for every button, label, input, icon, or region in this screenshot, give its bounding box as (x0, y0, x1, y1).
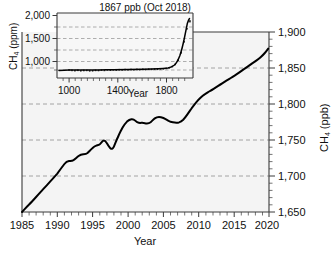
inset-annotation-label: 1867 ppb (Oct 2018) (99, 2, 191, 13)
x-tick-label: 2000 (116, 219, 140, 231)
x-tick-label: 1985 (10, 219, 34, 231)
y-tick-label: 1,850 (278, 62, 306, 74)
x-tick-label: 1990 (45, 219, 69, 231)
inset-y-tick-labels: 1,000 1,500 2,000 (25, 10, 50, 67)
y-tick-label: 1,750 (278, 134, 306, 146)
y-tick-label: 1,800 (278, 98, 306, 110)
inset-y-tick-label: 1,500 (25, 33, 50, 44)
main-y-major-ticks (269, 32, 275, 212)
svg-text:CH4 (ppb): CH4 (ppb) (318, 103, 331, 152)
inset-y-axis-title: CH4 (ppm) (8, 23, 20, 70)
inset-x-tick-label: 1800 (155, 85, 178, 96)
inset-y-tick-label: 1,000 (25, 56, 50, 67)
main-y-tick-labels: 1,650 1,700 1,750 1,800 1,850 1,900 (278, 26, 306, 218)
inset-x-tick-label: 1000 (58, 85, 81, 96)
inset-x-tick-labels: 1000 1400 1800 (58, 85, 178, 96)
x-tick-label: 2010 (186, 219, 210, 231)
x-tick-label: 2005 (151, 219, 175, 231)
main-x-tick-labels: 1985 1990 1995 2000 2005 2010 2015 2020 (10, 219, 279, 231)
inset-x-tick-label: 1400 (107, 85, 130, 96)
y-tick-label: 1,650 (278, 206, 306, 218)
main-y-axis-title: CH4 (ppb) (318, 103, 331, 152)
main-x-axis-title: Year (134, 235, 157, 247)
inset-x-axis-title: Year (128, 88, 149, 99)
chart-canvas: 1985 1990 1995 2000 2005 2010 2015 2020 … (0, 0, 336, 253)
inset-y-tick-label: 2,000 (25, 10, 50, 21)
x-tick-label: 2015 (222, 219, 246, 231)
ch4-concentration-figure: 1985 1990 1995 2000 2005 2010 2015 2020 … (0, 0, 336, 253)
svg-text:CH4 (ppm): CH4 (ppm) (8, 23, 20, 70)
main-x-major-ticks (22, 212, 269, 217)
y-tick-label: 1,700 (278, 170, 306, 182)
x-tick-label: 2020 (255, 219, 279, 231)
x-tick-label: 1995 (80, 219, 104, 231)
y-tick-label: 1,900 (278, 26, 306, 38)
inset-plot-background (57, 13, 193, 78)
